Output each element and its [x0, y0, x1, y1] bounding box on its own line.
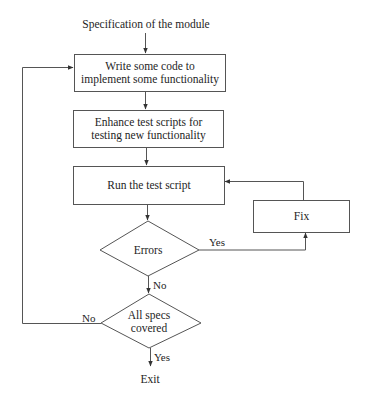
edge-label-errors-no: No [153, 279, 166, 292]
node-write-code-line-2: implement some functionality [81, 73, 219, 86]
arrow-fix-to-run [225, 182, 304, 201]
node-enhance-tests: Enhance test scripts for testing new fun… [73, 110, 224, 148]
node-fix: Fix [253, 200, 350, 233]
edge-label-specs-yes: Yes [154, 351, 170, 364]
node-write-code: Write some code to implement some functi… [74, 54, 226, 92]
edge-label-specs-no: No [82, 312, 95, 325]
edge-label-errors-yes: Yes [209, 236, 225, 249]
node-enhance-tests-line-2: testing new functionality [91, 129, 205, 142]
node-write-code-line-1: Write some code to [105, 60, 194, 73]
node-run-tests-line-1: Run the test script [107, 179, 190, 192]
start-label: Specification of the module [60, 18, 232, 31]
node-all-specs-line-2: covered [118, 322, 180, 335]
node-fix-line-1: Fix [294, 210, 309, 223]
node-run-tests: Run the test script [73, 166, 225, 205]
node-errors-label: Errors [118, 244, 178, 257]
node-enhance-tests-line-1: Enhance test scripts for [95, 116, 203, 129]
node-all-specs-line-1: All specs [118, 309, 180, 322]
end-label: Exit [130, 373, 170, 386]
